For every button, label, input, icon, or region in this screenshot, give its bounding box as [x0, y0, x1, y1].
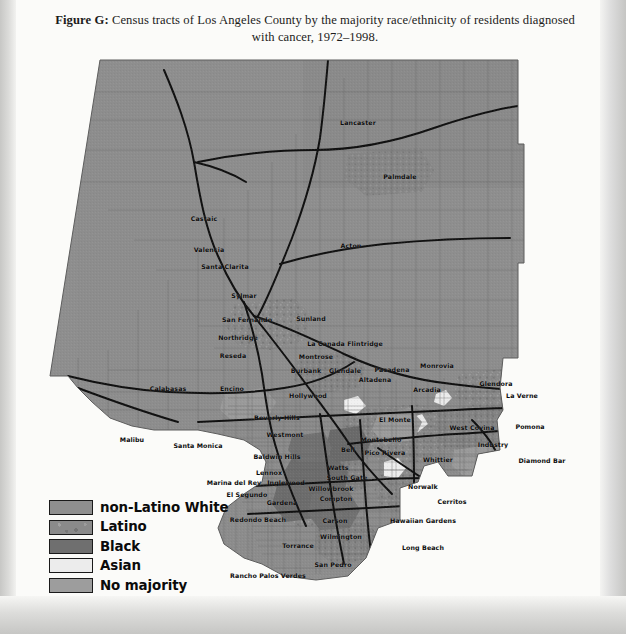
- city-label: Cerritos: [437, 498, 466, 505]
- legend-item: No majority: [49, 576, 229, 595]
- city-label: Sunland: [296, 315, 326, 322]
- city-label: Sylmar: [231, 292, 256, 299]
- city-label: South Gate: [327, 474, 368, 481]
- city-label: Malibu: [120, 436, 144, 443]
- city-label: Torrance: [282, 542, 314, 549]
- legend-swatch: [49, 558, 93, 573]
- city-label: Reseda: [220, 352, 247, 359]
- city-label: Calabasas: [150, 385, 187, 392]
- city-label: Bell: [341, 446, 355, 453]
- city-label: Valencia: [194, 246, 225, 253]
- scan-edge-right: [600, 0, 626, 634]
- city-label: La Verne: [506, 392, 538, 399]
- city-label: Lennox: [256, 469, 282, 476]
- city-label: El Segundo: [227, 491, 268, 498]
- scan-edge-bottom: [0, 596, 626, 634]
- city-label: Arcadia: [413, 386, 441, 393]
- legend-item: Black: [49, 537, 229, 556]
- city-label: Montebello: [361, 436, 402, 443]
- city-label: Hollywood: [289, 392, 327, 399]
- scanned-page: Figure G: Census tracts of Los Angeles C…: [0, 0, 626, 634]
- city-label: Glendale: [329, 367, 361, 374]
- city-label: Beverly Hills: [254, 414, 300, 421]
- legend-label: Black: [100, 540, 140, 553]
- legend-swatch: [49, 500, 93, 515]
- city-label: Carson: [322, 517, 347, 524]
- city-label: Northridge: [218, 334, 258, 341]
- city-label: Baldwin Hills: [253, 453, 300, 460]
- city-label: Westmont: [267, 431, 304, 438]
- city-label: Long Beach: [402, 544, 444, 551]
- city-label: Norwalk: [408, 483, 438, 490]
- city-label: Inglewood: [267, 479, 305, 486]
- figure-caption: Figure G: Census tracts of Los Angeles C…: [50, 12, 580, 46]
- city-label: Acton: [341, 242, 362, 249]
- legend-swatch: [49, 539, 93, 554]
- city-label: Castaic: [191, 215, 217, 222]
- city-label: Santa Clarita: [201, 263, 249, 270]
- city-label: Hawaiian Gardens: [390, 517, 456, 524]
- legend-label: non-Latino White: [100, 501, 229, 514]
- city-label: Pomona: [515, 423, 544, 430]
- city-label: Pasadena: [374, 366, 409, 373]
- city-label: Encino: [220, 385, 244, 392]
- city-label: Wilmington: [320, 533, 362, 540]
- legend-swatch: [49, 520, 93, 535]
- legend-label: Asian: [100, 559, 141, 572]
- figure-label: Figure G:: [55, 13, 108, 27]
- legend-swatch: [49, 578, 93, 593]
- city-label: La Canada Flintridge: [307, 340, 383, 347]
- city-label: West Covina: [450, 424, 495, 431]
- legend-label: Latino: [100, 520, 147, 533]
- city-label: Altadena: [359, 376, 392, 383]
- city-label: Rancho Palos Verdes: [230, 572, 306, 579]
- city-label: Monrovia: [420, 362, 454, 369]
- city-label: Palmdale: [383, 173, 416, 180]
- legend-label: No majority: [100, 579, 187, 592]
- legend-item: Latino: [49, 517, 229, 536]
- city-label: Industry: [478, 441, 509, 448]
- city-label: Lancaster: [340, 119, 376, 126]
- city-label: Marina del Rey: [207, 479, 261, 486]
- city-label: Burbank: [291, 367, 322, 374]
- city-label: San Pedro: [314, 561, 351, 568]
- legend-item: non-Latino White: [49, 498, 229, 517]
- city-label: Glendora: [479, 380, 512, 387]
- city-label: Santa Monica: [173, 442, 222, 449]
- city-label: Watts: [327, 464, 348, 471]
- city-label: Diamond Bar: [519, 457, 566, 464]
- legend-item: Asian: [49, 556, 229, 575]
- city-label: Compton: [320, 495, 353, 502]
- figure-caption-text: Census tracts of Los Angeles County by t…: [109, 13, 575, 44]
- scan-edge-left: [0, 0, 16, 634]
- map-legend: non-Latino WhiteLatinoBlackAsianNo major…: [49, 498, 229, 595]
- city-label: Whittier: [423, 456, 453, 463]
- city-label: Montrose: [299, 353, 333, 360]
- city-label: Gardena: [267, 499, 298, 506]
- city-label: El Monte: [379, 416, 411, 423]
- city-label: Pico Rivera: [365, 449, 406, 456]
- city-label: San Fernando: [222, 316, 272, 323]
- city-label: Willowbrook: [308, 485, 353, 492]
- city-label: Redondo Beach: [230, 516, 286, 523]
